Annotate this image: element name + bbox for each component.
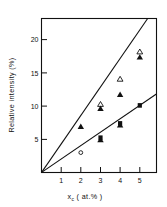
- x-axis-title-unit: ( at.% ): [77, 192, 103, 201]
- plot-frame: [42, 19, 157, 173]
- relative-intensity-scatter-chart: 5 10 15 20 1 2 3 4 5 Relative intensity …: [0, 0, 167, 207]
- y-tick-label-10: 10: [31, 103, 39, 110]
- y-axis-title: Relative intensity (%): [7, 57, 16, 132]
- x-axis-tick-labels: 1 2 3 4 5: [59, 177, 142, 184]
- y-tick-label-20: 20: [31, 36, 39, 43]
- x-tick-label-2: 2: [79, 177, 83, 184]
- y-axis-title-text: Relative intensity (%): [7, 57, 16, 132]
- x-tick-label-5: 5: [138, 177, 142, 184]
- data-point-filled-square: [138, 103, 142, 108]
- y-tick-label-5: 5: [35, 136, 39, 143]
- x-axis-title: xc ( at.% ): [67, 192, 102, 202]
- y-tick-label-15: 15: [31, 70, 39, 77]
- y-axis-tick-labels: 5 10 15 20: [31, 36, 39, 143]
- x-tick-label-3: 3: [99, 177, 103, 184]
- x-axis-title-text: xc ( at.% ): [67, 192, 102, 202]
- x-tick-label-1: 1: [59, 177, 63, 184]
- x-tick-label-4: 4: [118, 177, 122, 184]
